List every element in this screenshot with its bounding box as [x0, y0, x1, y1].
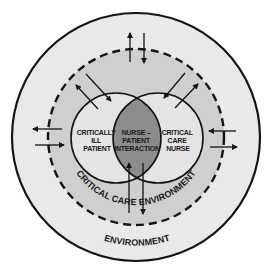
- care-environment-diagram: CRITICALLY ILL PATIENT NURSE – PATIENT I…: [0, 0, 272, 277]
